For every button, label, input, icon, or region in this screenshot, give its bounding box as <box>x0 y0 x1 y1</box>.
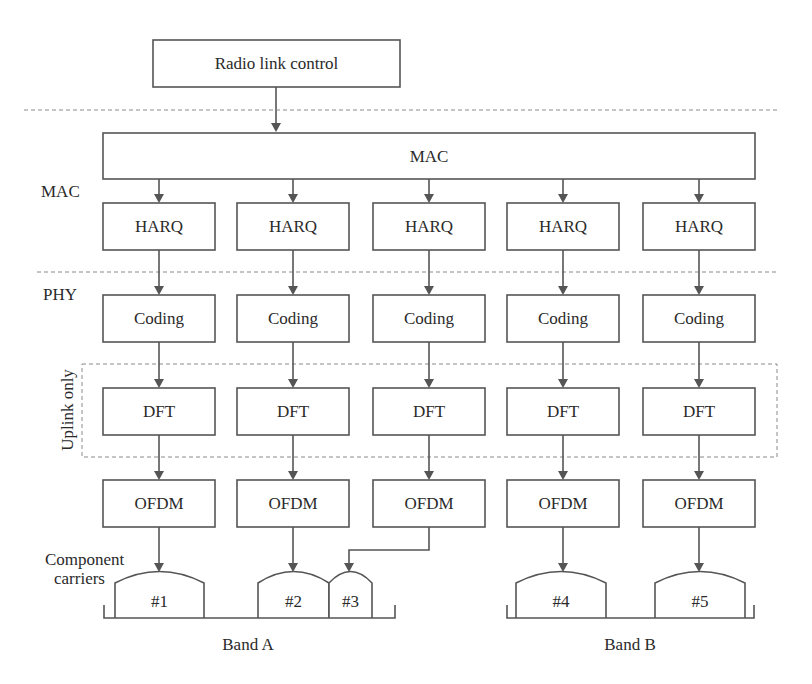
component-carriers-label-line1: Component <box>45 550 125 569</box>
frequency-bands: #1#2#3#4#5Band ABand B <box>104 572 754 655</box>
arrowhead-icon <box>424 194 434 203</box>
dft-label: DFT <box>413 402 446 421</box>
arrowhead-icon <box>694 563 704 572</box>
arrowhead-icon <box>558 194 568 203</box>
harq-label: HARQ <box>405 217 453 236</box>
arrowhead-icon <box>424 471 434 480</box>
carrier-2: #2 <box>258 572 329 619</box>
harq-label: HARQ <box>539 217 587 236</box>
arrowhead-icon <box>288 379 298 388</box>
ofdm-to-carrier-3-connector <box>349 527 429 564</box>
harq-label: HARQ <box>269 217 317 236</box>
carrier-label: #1 <box>151 592 168 611</box>
coding-box: Coding <box>643 295 755 342</box>
ofdm-box: OFDM <box>373 480 485 527</box>
coding-label: Coding <box>538 309 589 328</box>
coding-label: Coding <box>268 309 319 328</box>
arrowhead-icon <box>271 123 281 132</box>
arrowhead-icon <box>154 286 164 295</box>
mac-box-label: MAC <box>410 147 449 166</box>
ofdm-label: OFDM <box>268 494 317 513</box>
harq-box: HARQ <box>237 203 349 250</box>
arrowhead-icon <box>558 563 568 572</box>
dft-box: DFT <box>237 388 349 435</box>
ofdm-box: OFDM <box>643 480 755 527</box>
arrowhead-icon <box>154 379 164 388</box>
band-label: Band B <box>604 635 655 654</box>
dft-box: DFT <box>643 388 755 435</box>
ofdm-label: OFDM <box>674 494 723 513</box>
radio-link-control-label: Radio link control <box>215 54 339 73</box>
ofdm-label: OFDM <box>538 494 587 513</box>
ofdm-box: OFDM <box>103 480 215 527</box>
band-label: Band A <box>222 635 274 654</box>
carrier-4: #4 <box>516 572 606 619</box>
processing-chains: HARQCodingDFTOFDMHARQCodingDFTOFDMHARQCo… <box>103 179 755 572</box>
arrowhead-icon <box>694 194 704 203</box>
coding-box: Coding <box>507 295 619 342</box>
chain-column-4: HARQCodingDFTOFDM <box>507 179 619 527</box>
arrowhead-icon <box>288 563 298 572</box>
arrowhead-icon <box>424 379 434 388</box>
chain-column-3: HARQCodingDFTOFDM <box>373 179 485 527</box>
arrowhead-icon <box>558 286 568 295</box>
chain-column-2: HARQCodingDFTOFDM <box>237 179 349 527</box>
coding-box: Coding <box>237 295 349 342</box>
arrowhead-icon <box>154 471 164 480</box>
arrowhead-icon <box>424 286 434 295</box>
component-carriers-label-line2: carriers <box>54 569 105 588</box>
coding-label: Coding <box>134 309 185 328</box>
harq-box: HARQ <box>373 203 485 250</box>
dft-box: DFT <box>507 388 619 435</box>
dft-label: DFT <box>277 402 310 421</box>
carrier-label: #5 <box>692 592 709 611</box>
ofdm-box: OFDM <box>507 480 619 527</box>
arrowhead-icon <box>154 563 164 572</box>
arrowhead-icon <box>344 563 354 572</box>
carrier-5: #5 <box>655 572 745 619</box>
dft-box: DFT <box>103 388 215 435</box>
arrowhead-icon <box>288 471 298 480</box>
coding-label: Coding <box>404 309 455 328</box>
dft-label: DFT <box>547 402 580 421</box>
harq-box: HARQ <box>643 203 755 250</box>
dft-label: DFT <box>143 402 176 421</box>
chain-column-5: HARQCodingDFTOFDM <box>643 179 755 527</box>
harq-label: HARQ <box>675 217 723 236</box>
arrowhead-icon <box>558 379 568 388</box>
ofdm-box: OFDM <box>237 480 349 527</box>
arrowhead-icon <box>288 194 298 203</box>
mac-box: MAC <box>103 133 755 179</box>
dft-box: DFT <box>373 388 485 435</box>
arrowhead-icon <box>288 286 298 295</box>
arrowhead-icon <box>694 379 704 388</box>
carrier-1: #1 <box>115 572 204 619</box>
harq-label: HARQ <box>135 217 183 236</box>
carrier-label: #3 <box>342 592 359 611</box>
carrier-label: #4 <box>553 592 571 611</box>
coding-box: Coding <box>373 295 485 342</box>
chain-column-1: HARQCodingDFTOFDM <box>103 179 215 527</box>
carrier-3: #3 <box>329 572 372 619</box>
harq-box: HARQ <box>507 203 619 250</box>
coding-box: Coding <box>103 295 215 342</box>
uplink-only-label: Uplink only <box>58 369 77 451</box>
carrier-label: #2 <box>285 592 302 611</box>
arrowhead-icon <box>694 471 704 480</box>
radio-link-control-box: Radio link control <box>153 40 400 87</box>
arrowhead-icon <box>558 471 568 480</box>
arrowhead-icon <box>154 194 164 203</box>
ofdm-label: OFDM <box>134 494 183 513</box>
dft-label: DFT <box>683 402 716 421</box>
coding-label: Coding <box>674 309 725 328</box>
phy-layer-label: PHY <box>43 285 77 304</box>
ofdm-label: OFDM <box>404 494 453 513</box>
harq-box: HARQ <box>103 203 215 250</box>
arrowhead-icon <box>694 286 704 295</box>
mac-layer-label: MAC <box>41 182 80 201</box>
protocol-stack-diagram: Radio link control MAC MAC PHY Uplink on… <box>0 0 812 684</box>
